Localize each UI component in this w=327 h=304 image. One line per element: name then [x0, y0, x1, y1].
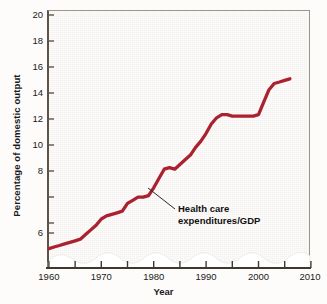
y-tick-label: 14: [32, 87, 43, 98]
x-tick-label: 1980: [143, 271, 164, 282]
x-tick-label: 2000: [248, 271, 269, 282]
y-axis-tick-labels: 20 18 16 14 12 10 8 6: [32, 9, 43, 238]
annotation-line-2: expenditures/GDP: [178, 215, 261, 226]
x-axis-tick-labels: 1960 1970 1980 1990 2000 2010: [38, 271, 320, 282]
x-tick-label: 1990: [196, 271, 217, 282]
chart-svg: 20 18 16 14 12 10 8 6: [0, 0, 327, 304]
y-tick-label: 6: [38, 227, 43, 238]
y-tick-label: 18: [32, 35, 43, 46]
y-tick-label: 10: [32, 139, 43, 150]
annotation-line-1: Health care: [178, 203, 229, 214]
y-tick-label: 16: [32, 61, 43, 72]
y-tick-label: 12: [32, 113, 43, 124]
x-tick-label: 1970: [91, 271, 112, 282]
axis-break-ribbon: [48, 252, 310, 268]
chart-figure: Percentage of domestic output Year 20 18…: [0, 0, 327, 304]
x-tick-label: 2010: [299, 271, 320, 282]
y-axis-ticks: [47, 15, 54, 233]
x-tick-label: 1960: [38, 271, 59, 282]
y-tick-label: 8: [38, 165, 43, 176]
y-tick-label: 20: [32, 9, 43, 20]
annotation-leader-line: [148, 188, 175, 209]
